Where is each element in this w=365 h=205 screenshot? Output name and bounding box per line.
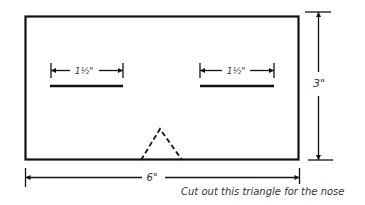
- left-eye-dimension: 1½": [51, 63, 123, 78]
- width-dimension-label: 6": [147, 172, 158, 183]
- height-dimension: 3": [305, 12, 333, 160]
- nose-caption: Cut out this triangle for the nose: [181, 186, 344, 197]
- right-eye-dimension-label: 1½": [227, 66, 246, 76]
- left-eye-dimension-label: 1½": [75, 66, 94, 76]
- height-dimension-label: 3": [313, 77, 325, 90]
- nose-cutout-triangle: [141, 129, 182, 160]
- mask-outline: [26, 17, 299, 160]
- mask-template-diagram: 1½" 1½" 3" 6" Cut out this triangle for …: [0, 0, 365, 205]
- width-dimension: 6": [26, 168, 300, 187]
- right-eye-dimension: 1½": [200, 63, 274, 78]
